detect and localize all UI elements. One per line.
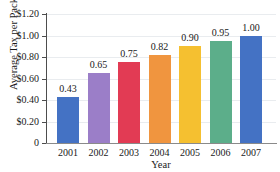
bar-group[interactable]: 0.90 [179, 14, 201, 143]
y-tick-mark [42, 36, 46, 37]
bar[interactable] [210, 41, 232, 143]
bar[interactable] [88, 73, 110, 143]
y-tick-mark [42, 143, 46, 144]
y-tick-label: $0.80 [0, 52, 39, 62]
bar[interactable] [240, 36, 262, 144]
bar-group[interactable]: 0.65 [88, 14, 110, 143]
bar-value-label: 0.82 [141, 42, 179, 52]
y-tick-label: $0.60 [0, 74, 39, 84]
bar-value-label: 0.43 [49, 84, 87, 94]
bar-group[interactable]: 0.75 [118, 14, 140, 143]
x-tick-label: 2007 [231, 147, 271, 158]
bar-group[interactable]: 0.82 [149, 14, 171, 143]
y-axis-line [46, 13, 47, 144]
bar-value-label: 0.65 [80, 60, 118, 70]
y-tick-mark [42, 57, 46, 58]
y-tick-mark [42, 122, 46, 123]
y-tick-label: $1.00 [0, 31, 39, 41]
y-tick-label: 0 [0, 138, 39, 148]
y-tick-label: $1.20 [0, 9, 39, 19]
bar[interactable] [149, 55, 171, 143]
bar[interactable] [57, 97, 79, 143]
bar-group[interactable]: 0.43 [57, 14, 79, 143]
bar-group[interactable]: 1.00 [240, 14, 262, 143]
y-tick-label: $0.20 [0, 117, 39, 127]
y-tick-mark [42, 79, 46, 80]
bar-group[interactable]: 0.95 [210, 14, 232, 143]
y-tick-label: $0.40 [0, 95, 39, 105]
x-axis-title: Year [46, 159, 276, 170]
y-tick-mark [42, 14, 46, 15]
chart-title [0, 0, 280, 3]
bar[interactable] [179, 46, 201, 143]
x-axis-line [46, 143, 277, 144]
bar[interactable] [118, 62, 140, 143]
bar-chart-figure: Average Tax per Pack $1.20$1.00$0.80$0.6… [0, 0, 280, 172]
bar-value-label: 1.00 [232, 23, 270, 33]
y-tick-mark [42, 100, 46, 101]
